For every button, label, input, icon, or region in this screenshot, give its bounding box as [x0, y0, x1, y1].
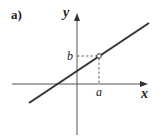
x-axis: [12, 81, 148, 87]
marked-point: [97, 54, 102, 59]
panel-label: a): [11, 7, 22, 22]
x-axis-label: x: [140, 86, 148, 101]
point-x-label: a: [96, 85, 102, 99]
function-graph: a) y x b a: [0, 0, 168, 139]
y-axis-arrow-icon: [74, 13, 80, 21]
y-axis: [74, 13, 80, 135]
function-line: [29, 23, 149, 103]
point-y-label: b: [67, 49, 73, 63]
y-axis-label: y: [61, 5, 70, 20]
